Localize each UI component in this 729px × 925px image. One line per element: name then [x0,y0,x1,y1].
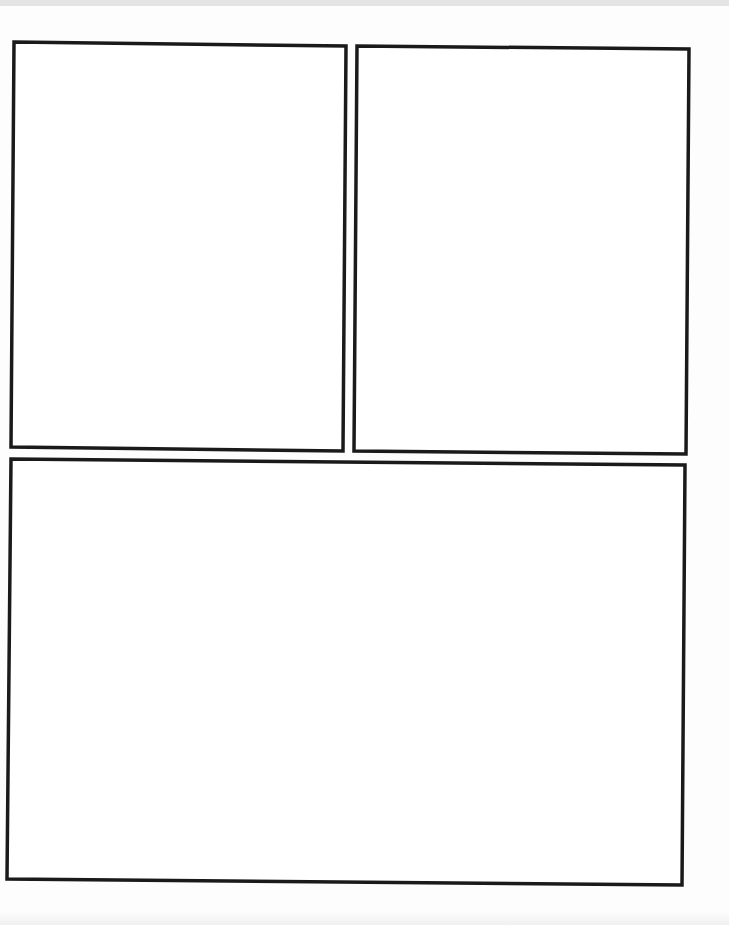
panel-bottom-wide [7,459,685,885]
panel-top-left [11,42,346,451]
panel-top-right [354,46,689,454]
comic-page [0,0,729,925]
